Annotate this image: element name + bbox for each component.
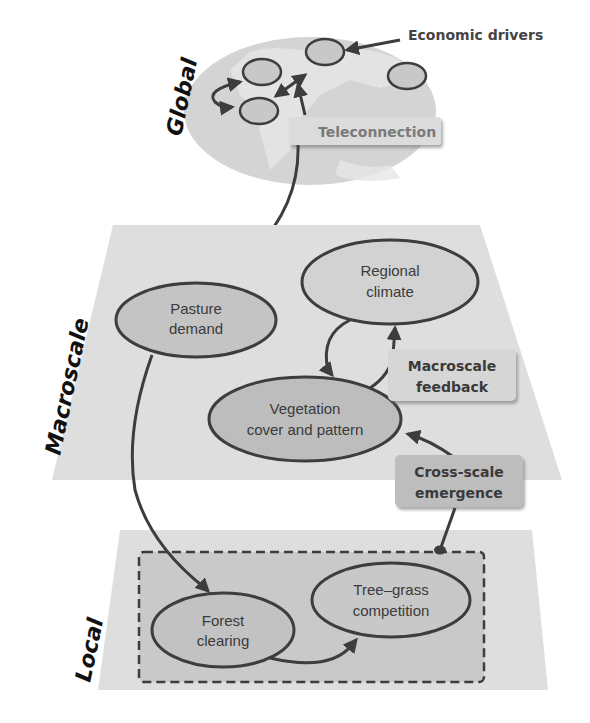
node-forest-clearing-line1: Forest: [202, 612, 245, 629]
node-regional-climate: [302, 240, 478, 324]
global-layer: Economic drivers Teleconnection Global: [161, 27, 543, 185]
driver-node: [243, 59, 281, 85]
macroscale-feedback-line2: feedback: [416, 379, 489, 395]
teleconnection-label: Teleconnection: [318, 124, 436, 140]
node-pasture-demand-line2: demand: [169, 320, 223, 337]
node-forest-clearing-line2: clearing: [197, 632, 250, 649]
node-forest-clearing: [152, 593, 294, 667]
driver-node: [306, 39, 344, 65]
node-regional-climate-line2: climate: [366, 283, 414, 300]
cross-scale-emergence-line2: emergence: [415, 485, 503, 501]
node-tree-grass-competition: [312, 563, 470, 637]
cross-scale-emergence-line1: Cross-scale: [414, 464, 504, 480]
driver-node: [240, 98, 278, 124]
node-regional-climate-line1: Regional: [360, 262, 419, 279]
node-tree-grass-line2: competition: [353, 602, 430, 619]
node-vegetation-cover: [209, 377, 401, 461]
economic-drivers-label: Economic drivers: [408, 27, 543, 43]
cross-scale-diagram: Economic drivers Teleconnection Global P…: [0, 0, 590, 723]
connector-dot: [434, 546, 446, 555]
driver-node: [388, 63, 426, 89]
node-vegetation-line1: Vegetation: [270, 400, 341, 417]
macroscale-feedback-line1: Macroscale: [408, 358, 497, 374]
cross-scale-emergence: Cross-scale emergence: [395, 455, 523, 507]
node-pasture-demand-line1: Pasture: [170, 300, 222, 317]
node-tree-grass-line1: Tree–grass: [353, 581, 428, 598]
node-vegetation-line2: cover and pattern: [247, 421, 364, 438]
macroscale-layer: Pasture demand Regional climate Vegetati…: [40, 225, 562, 480]
